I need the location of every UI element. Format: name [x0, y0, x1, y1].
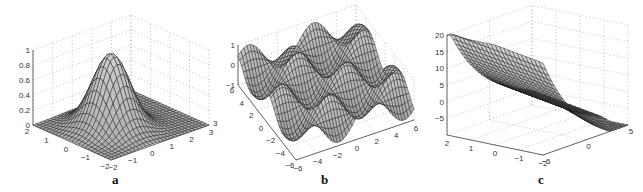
z-tick-label: 5: [440, 81, 445, 90]
panel-b: −101−6−4−20246−6−4−202463 b: [210, 0, 430, 192]
surface-plot-a: 00.20.40.60.81−2−10123−2−1012: [0, 0, 215, 192]
y-tick-label: 2: [25, 127, 30, 136]
z-tick-label: 0: [231, 61, 236, 70]
z-tick-label: 20: [435, 31, 444, 40]
y-tick-label: −2: [266, 136, 276, 145]
y-tick-label: −4: [276, 149, 286, 158]
surface-plot-c: −505101520−505−2−1012: [430, 0, 643, 192]
y-tick-label: −1: [81, 153, 91, 162]
panel-a: 00.20.40.60.81−2−10123−2−1012 a: [0, 0, 215, 192]
z-tick-label: 1: [26, 46, 31, 55]
x-tick-label: −6: [293, 164, 303, 173]
z-tick-label: 15: [435, 48, 444, 57]
x-tick-label: 0: [586, 142, 591, 151]
caption-b: b: [321, 172, 328, 188]
z-tick-label: 0.8: [19, 61, 31, 70]
panel-c: −505101520−505−2−1012 c: [430, 0, 643, 192]
surface-mesh: [238, 22, 414, 142]
x-tick-label: 4: [394, 131, 399, 140]
y-tick-label: 0: [259, 124, 264, 133]
y-tick-label: −6: [285, 161, 295, 170]
y-tick-label: 1: [469, 144, 474, 153]
x-tick-label: 0: [355, 144, 360, 153]
x-tick-label: 0: [150, 149, 155, 158]
x-tick-label: 5: [629, 127, 634, 136]
y-tick-label: −2: [538, 159, 548, 168]
y-tick-label: 0: [493, 149, 498, 158]
caption-c: c: [538, 172, 544, 188]
z-tick-label: 0.2: [19, 106, 31, 115]
x-tick-label: 6: [414, 124, 419, 133]
y-tick-label: 0: [64, 145, 69, 154]
y-tick-label: 2: [445, 139, 450, 148]
z-tick-label: 10: [435, 64, 444, 73]
y-tick-label: −2: [100, 162, 110, 171]
x-tick-label: 2: [374, 137, 379, 146]
y-tick-label: −1: [514, 154, 524, 163]
y-tick-label: 6: [230, 86, 235, 95]
surface-plot-b: −101−6−4−20246−6−4−202463: [210, 0, 430, 192]
x-tick-label: 1: [170, 142, 175, 151]
y-tick-label: 4: [239, 99, 244, 108]
x-tick-label: −2: [108, 163, 118, 172]
z-tick-label: −5: [435, 114, 445, 123]
x-tick-label: −1: [128, 156, 138, 165]
stray-tick-label: 3: [213, 119, 218, 128]
y-tick-label: 2: [249, 111, 254, 120]
x-tick-label: −2: [333, 151, 343, 160]
z-tick-label: 0.6: [19, 76, 31, 85]
z-tick-label: 0.4: [19, 91, 31, 100]
x-tick-label: −4: [313, 157, 323, 166]
z-tick-label: 0: [440, 98, 445, 107]
z-tick-label: 1: [231, 41, 236, 50]
x-tick-label: 2: [189, 135, 194, 144]
caption-a: a: [112, 172, 119, 188]
y-tick-label: 1: [44, 136, 49, 145]
surface-mesh: [33, 54, 209, 160]
